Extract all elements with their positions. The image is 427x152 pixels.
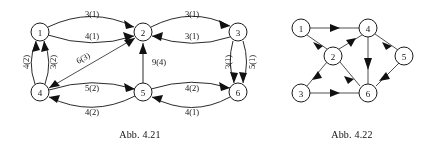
- node-r6-label: 6: [366, 89, 371, 99]
- edge-2-6: [340, 62, 360, 86]
- node-r1[interactable]: 1: [292, 19, 310, 37]
- node-r2[interactable]: 2: [324, 47, 342, 65]
- edges-group-right: [307, 24, 399, 97]
- node-r1-label: 1: [299, 24, 304, 34]
- node-r3-label: 3: [299, 89, 304, 99]
- node-r3[interactable]: 3: [292, 84, 310, 102]
- arrowhead-4-6: [364, 58, 372, 70]
- edge-5-6: [376, 63, 399, 86]
- caption-abb-4-22: Abb. 4.22: [331, 129, 373, 140]
- node-r4-label: 4: [366, 24, 371, 34]
- nodes-group-right: 1 4 2 5 3 6: [292, 19, 413, 102]
- node-r6[interactable]: 6: [359, 84, 377, 102]
- arrowhead-2-4: [346, 38, 356, 47]
- arrowhead-4-5: [382, 42, 392, 50]
- figure-abb-4-22: 1 4 2 5 3 6 Abb. 4.22: [0, 0, 427, 152]
- node-r5-label: 5: [402, 52, 407, 62]
- figure-sheet: 1 2 3 4 5 6 3(1): [0, 0, 427, 152]
- arrowhead-3-6: [330, 89, 340, 97]
- node-r4[interactable]: 4: [359, 19, 377, 37]
- arrowhead-2-3: [312, 71, 322, 80]
- node-r5[interactable]: 5: [395, 47, 413, 65]
- arrowhead-1-4: [330, 24, 340, 32]
- node-r2-label: 2: [331, 52, 336, 62]
